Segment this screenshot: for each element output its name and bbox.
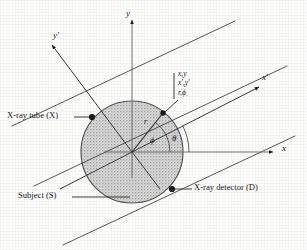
radius-label: r — [144, 118, 147, 126]
coordinate-polar: r,ϕ — [178, 89, 190, 97]
phi-angle-label: ϕ — [150, 136, 155, 145]
y-axis-label: y — [126, 9, 130, 18]
theta-angle-arc — [183, 126, 189, 152]
sample-point — [160, 110, 165, 115]
xray-detector-point — [169, 186, 175, 192]
theta-angle-label: θ — [172, 134, 176, 143]
coordinate-leader-line — [165, 100, 178, 112]
xray-detector-label: X-ray detector (D) — [194, 183, 258, 192]
coordinate-rotated: x′,y′ — [178, 79, 190, 87]
y-prime-axis-label: y′ — [53, 31, 59, 40]
point-coordinates-list: x,y x′,y′ r,ϕ — [178, 70, 190, 96]
ct-geometry-figure: y x x′ y′ ϕ θ r x,y x′,y′ r,ϕ X-ray tube… — [0, 0, 307, 250]
coordinate-cartesian: x,y — [178, 70, 190, 78]
diagram-canvas — [0, 0, 307, 250]
subject-label: Subject (S) — [18, 191, 56, 200]
x-prime-axis-label: x′ — [262, 73, 268, 82]
x-axis-label: x — [282, 144, 286, 153]
xray-tube-label: X-ray tube (X) — [7, 111, 58, 120]
